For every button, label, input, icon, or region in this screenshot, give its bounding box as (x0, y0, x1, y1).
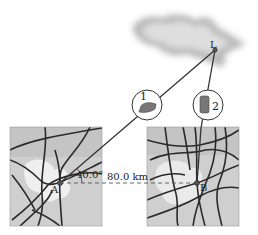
car-2-label: 2 (212, 100, 219, 113)
point-A (58, 181, 63, 186)
angle-label: 40.0° (76, 169, 103, 180)
label-B: B (200, 182, 207, 193)
car-2-badge: 2 (193, 90, 223, 120)
point-B (195, 181, 200, 186)
map-city-B (147, 127, 239, 226)
cloud-shape (132, 14, 246, 66)
label-L: L (210, 39, 217, 50)
car-2-icon (200, 96, 209, 113)
distance-label: 80.0 km (107, 171, 149, 182)
car-1-label: 1 (140, 90, 147, 103)
car-1-badge: 1 (132, 90, 162, 120)
diagram-canvas: 1 2 A B L 40.0° 80.0 km (0, 0, 258, 235)
label-A: A (50, 184, 59, 195)
